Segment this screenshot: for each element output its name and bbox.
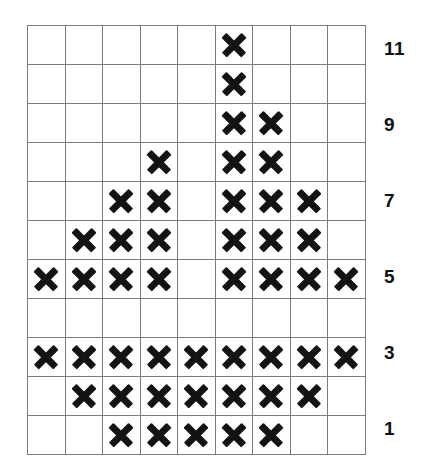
plot-cell-marked[interactable] — [103, 182, 141, 221]
plot-cell-marked[interactable] — [290, 377, 328, 416]
plot-cell-marked[interactable] — [253, 182, 291, 221]
plot-cell-empty[interactable] — [28, 26, 66, 65]
plot-cell-empty[interactable] — [290, 143, 328, 182]
plot-cell-empty[interactable] — [178, 221, 216, 260]
plot-cell-empty[interactable] — [328, 221, 366, 260]
plot-cell-empty[interactable] — [28, 182, 66, 221]
plot-cell-empty[interactable] — [28, 416, 66, 455]
plot-cell-marked[interactable] — [215, 338, 253, 377]
plot-cell-marked[interactable] — [178, 416, 216, 455]
plot-cell-marked[interactable] — [65, 260, 103, 299]
plot-cell-empty[interactable] — [328, 377, 366, 416]
plot-cell-empty[interactable] — [328, 416, 366, 455]
plot-cell-marked[interactable] — [253, 338, 291, 377]
plot-cell-empty[interactable] — [140, 299, 178, 338]
plot-cell-marked[interactable] — [103, 338, 141, 377]
plot-cell-marked[interactable] — [178, 377, 216, 416]
plot-cell-marked[interactable] — [140, 416, 178, 455]
plot-cell-marked[interactable] — [290, 338, 328, 377]
plot-cell-empty[interactable] — [328, 143, 366, 182]
plot-cell-empty[interactable] — [28, 65, 66, 104]
plot-cell-marked[interactable] — [65, 221, 103, 260]
plot-cell-marked[interactable] — [215, 377, 253, 416]
plot-cell-empty[interactable] — [65, 26, 103, 65]
plot-cell-marked[interactable] — [328, 338, 366, 377]
plot-cell-marked[interactable] — [253, 416, 291, 455]
plot-cell-empty[interactable] — [65, 182, 103, 221]
plot-cell-empty[interactable] — [328, 104, 366, 143]
plot-cell-empty[interactable] — [253, 299, 291, 338]
plot-cell-empty[interactable] — [140, 65, 178, 104]
plot-cell-marked[interactable] — [253, 260, 291, 299]
plot-cell-marked[interactable] — [215, 416, 253, 455]
plot-cell-marked[interactable] — [140, 143, 178, 182]
plot-cell-empty[interactable] — [140, 104, 178, 143]
plot-cell-empty[interactable] — [328, 299, 366, 338]
plot-cell-empty[interactable] — [290, 26, 328, 65]
plot-cell-empty[interactable] — [65, 143, 103, 182]
plot-cell-marked[interactable] — [253, 143, 291, 182]
plot-cell-empty[interactable] — [178, 260, 216, 299]
plot-cell-marked[interactable] — [28, 260, 66, 299]
plot-cell-empty[interactable] — [103, 26, 141, 65]
plot-cell-empty[interactable] — [28, 104, 66, 143]
plot-cell-marked[interactable] — [215, 260, 253, 299]
plot-cell-marked[interactable] — [103, 221, 141, 260]
plot-cell-marked[interactable] — [215, 65, 253, 104]
plot-cell-empty[interactable] — [178, 143, 216, 182]
plot-cell-empty[interactable] — [178, 104, 216, 143]
plot-cell-empty[interactable] — [65, 65, 103, 104]
plot-cell-empty[interactable] — [28, 377, 66, 416]
plot-cell-marked[interactable] — [215, 104, 253, 143]
plot-cell-empty[interactable] — [103, 104, 141, 143]
plot-cell-empty[interactable] — [178, 26, 216, 65]
plot-cell-marked[interactable] — [290, 221, 328, 260]
plot-cell-empty[interactable] — [290, 104, 328, 143]
plot-cell-empty[interactable] — [328, 26, 366, 65]
plot-cell-marked[interactable] — [140, 260, 178, 299]
plot-cell-marked[interactable] — [103, 377, 141, 416]
plot-cell-marked[interactable] — [253, 104, 291, 143]
plot-cell-marked[interactable] — [290, 260, 328, 299]
plot-cell-marked[interactable] — [215, 26, 253, 65]
plot-cell-empty[interactable] — [178, 299, 216, 338]
plot-cell-marked[interactable] — [140, 338, 178, 377]
plot-cell-marked[interactable] — [178, 338, 216, 377]
plot-cell-empty[interactable] — [290, 416, 328, 455]
plot-cell-empty[interactable] — [140, 26, 178, 65]
plot-cell-empty[interactable] — [65, 104, 103, 143]
plot-cell-empty[interactable] — [103, 299, 141, 338]
plot-cell-empty[interactable] — [178, 65, 216, 104]
plot-cell-marked[interactable] — [140, 182, 178, 221]
plot-cell-marked[interactable] — [65, 377, 103, 416]
plot-cell-empty[interactable] — [65, 416, 103, 455]
plot-cell-empty[interactable] — [28, 143, 66, 182]
plot-cell-marked[interactable] — [65, 338, 103, 377]
blank-cell — [328, 416, 365, 454]
plot-cell-marked[interactable] — [140, 221, 178, 260]
plot-cell-empty[interactable] — [28, 299, 66, 338]
plot-cell-empty[interactable] — [28, 221, 66, 260]
plot-cell-empty[interactable] — [253, 65, 291, 104]
plot-cell-marked[interactable] — [253, 221, 291, 260]
plot-cell-marked[interactable] — [103, 416, 141, 455]
plot-cell-empty[interactable] — [178, 182, 216, 221]
plot-cell-marked[interactable] — [215, 182, 253, 221]
plot-cell-marked[interactable] — [215, 221, 253, 260]
plot-cell-empty[interactable] — [215, 299, 253, 338]
plot-cell-empty[interactable] — [65, 299, 103, 338]
plot-cell-marked[interactable] — [28, 338, 66, 377]
plot-cell-empty[interactable] — [290, 299, 328, 338]
plot-cell-empty[interactable] — [290, 65, 328, 104]
plot-cell-marked[interactable] — [140, 377, 178, 416]
plot-cell-marked[interactable] — [253, 377, 291, 416]
plot-cell-empty[interactable] — [103, 143, 141, 182]
plot-cell-empty[interactable] — [253, 26, 291, 65]
plot-cell-empty[interactable] — [103, 65, 141, 104]
plot-cell-empty[interactable] — [328, 182, 366, 221]
plot-cell-marked[interactable] — [328, 260, 366, 299]
plot-cell-empty[interactable] — [328, 65, 366, 104]
plot-cell-marked[interactable] — [103, 260, 141, 299]
plot-cell-marked[interactable] — [215, 143, 253, 182]
plot-cell-marked[interactable] — [290, 182, 328, 221]
